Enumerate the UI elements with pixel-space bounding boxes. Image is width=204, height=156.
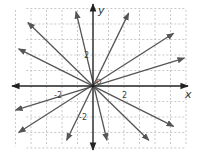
tick-label-x-neg: -2 bbox=[54, 91, 62, 100]
coordinate-plane: x y 2 -2 2 -2 O bbox=[0, 0, 204, 156]
x-axis-label: x bbox=[184, 88, 192, 101]
tick-label-y-neg: -2 bbox=[79, 113, 87, 122]
axes bbox=[12, 4, 188, 150]
line-slope-neg-half bbox=[19, 49, 174, 127]
tick-label-x-pos: 2 bbox=[122, 91, 127, 100]
tick-label-y-pos: 2 bbox=[84, 51, 89, 60]
origin-label: O bbox=[96, 78, 102, 86]
line-slope-2 bbox=[67, 13, 129, 140]
lines-group bbox=[16, 12, 185, 141]
line-slope-neg-1 bbox=[28, 22, 149, 140]
y-axis-label: y bbox=[97, 4, 105, 17]
